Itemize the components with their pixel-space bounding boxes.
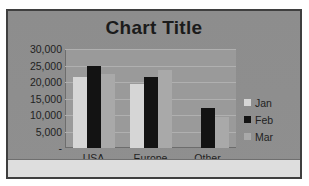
y-axis-tick-label: 30,000 bbox=[30, 43, 62, 55]
bar-usa-feb[interactable] bbox=[87, 66, 101, 149]
legend-item-mar[interactable]: Mar bbox=[244, 128, 296, 145]
y-axis-tick-label: 10,000 bbox=[30, 109, 62, 121]
bar-other-mar[interactable] bbox=[215, 117, 229, 148]
y-axis-tick-label: 20,000 bbox=[30, 76, 62, 88]
legend-label: Mar bbox=[255, 131, 273, 143]
legend-label: Feb bbox=[255, 114, 273, 126]
plot-area bbox=[65, 49, 236, 148]
bar-group bbox=[65, 49, 122, 148]
legend-item-feb[interactable]: Feb bbox=[244, 111, 296, 128]
chart-legend: JanFebMar bbox=[244, 94, 296, 145]
chart-bottom-band bbox=[8, 159, 300, 177]
legend-swatch-jan bbox=[244, 99, 251, 106]
y-axis-tick-label: 5,000 bbox=[36, 126, 62, 138]
bar-usa-jan[interactable] bbox=[73, 77, 87, 148]
y-axis-tick-label: 15,000 bbox=[30, 93, 62, 105]
bar-europe-jan[interactable] bbox=[130, 84, 144, 148]
legend-swatch-feb bbox=[244, 116, 251, 123]
legend-label: Jan bbox=[255, 97, 272, 109]
chart-title: Chart Title bbox=[8, 17, 300, 39]
y-axis-labels: 30,00025,00020,00015,00010,0005,000- bbox=[12, 41, 64, 156]
bar-group bbox=[122, 49, 179, 148]
bar-usa-mar[interactable] bbox=[101, 74, 115, 148]
bar-europe-mar[interactable] bbox=[158, 70, 172, 148]
legend-swatch-mar bbox=[244, 133, 251, 140]
chart-container[interactable]: Chart Title 30,00025,00020,00015,00010,0… bbox=[6, 9, 302, 179]
bar-europe-feb[interactable] bbox=[144, 77, 158, 148]
legend-item-jan[interactable]: Jan bbox=[244, 94, 296, 111]
bar-other-feb[interactable] bbox=[201, 108, 215, 148]
bar-group bbox=[179, 49, 236, 148]
y-axis-tick-label: - bbox=[59, 142, 63, 154]
y-axis-tick-label: 25,000 bbox=[30, 60, 62, 72]
